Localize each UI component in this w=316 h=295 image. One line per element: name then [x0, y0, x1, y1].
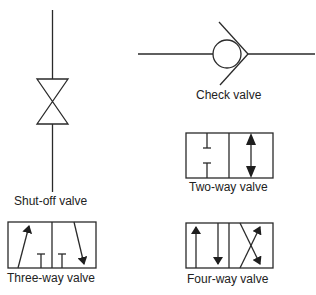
check-valve-label: Check valve: [196, 88, 261, 102]
two-way-valve-label: Two-way valve: [189, 180, 268, 194]
shutoff-valve-symbol: [37, 10, 68, 192]
three-way-valve-symbol: [8, 222, 96, 268]
three-way-valve-label: Three-way valve: [7, 271, 95, 285]
valve-symbols-diagram: [0, 0, 316, 295]
check-valve-symbol: [138, 22, 315, 85]
two-way-valve-symbol: [186, 133, 273, 178]
four-way-valve-symbol: [186, 223, 273, 268]
shutoff-valve-label: Shut-off valve: [14, 194, 87, 208]
four-way-valve-label: Four-way valve: [187, 272, 268, 286]
